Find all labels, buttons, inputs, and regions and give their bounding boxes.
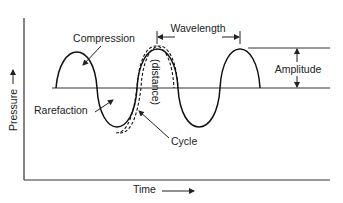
amplitude-label: Amplitude — [275, 63, 322, 75]
rarefaction-arrow — [95, 100, 113, 112]
x-axis-label: Time — [133, 183, 156, 195]
rarefaction-label: Rarefaction — [34, 104, 88, 116]
wavelength-label: Wavelength — [170, 22, 225, 34]
y-axis-label: Pressure — [7, 89, 19, 131]
compression-label: Compression — [73, 32, 135, 44]
cycle-label: Cycle — [171, 135, 197, 147]
sound-wave-diagram: Wavelength Amplitude Compression Rarefac… — [0, 0, 343, 203]
cycle-arrow — [139, 111, 169, 138]
distance-label: (distance) — [150, 59, 162, 105]
cycle-dashed-outline — [116, 46, 174, 133]
